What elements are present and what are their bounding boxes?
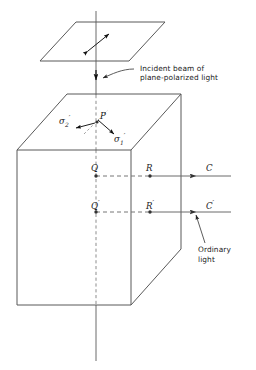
figure-canvas <box>0 0 256 370</box>
annotation-ordinary-light-line2: light <box>198 255 215 265</box>
point-dot-P <box>95 120 98 123</box>
annotation-incident-beam-line1: Incident beam of <box>140 64 204 74</box>
label-point-Cprime: C′ <box>206 200 214 211</box>
label-sigma1-prime: σ1′ <box>114 133 125 146</box>
label-point-C: C <box>206 164 213 173</box>
label-sigma2-prime: σ2′ <box>59 115 70 128</box>
label-point-P: P <box>100 112 106 121</box>
polarizer-plate-outline <box>40 22 165 61</box>
label-point-Qprime-letter: Q <box>91 201 98 211</box>
label-point-Qprime: Q′ <box>91 200 100 211</box>
prime-mark-C: ′ <box>213 199 215 207</box>
point-dot-R <box>148 174 151 177</box>
label-point-Q: Q <box>91 164 98 173</box>
label-point-R: R <box>146 164 152 173</box>
leader-incident-beam <box>103 69 134 78</box>
optics-double-refraction-figure: Incident beam of plane-polarized light O… <box>0 0 256 370</box>
crystal-edge-bottom-right-receding <box>131 249 181 305</box>
sigma1-vector-arrow <box>98 120 114 134</box>
prime-mark-R: ′ <box>152 199 154 207</box>
polarization-double-arrow <box>88 34 109 51</box>
sigma2-prime-mark: ′ <box>69 114 71 122</box>
label-point-Cprime-letter: C <box>206 201 213 211</box>
sigma1-prime-mark: ′ <box>124 132 126 140</box>
prime-mark-Q: ′ <box>98 199 100 207</box>
annotation-ordinary-light-line1: Ordinary <box>198 245 231 255</box>
crystal-top-face <box>17 94 181 150</box>
annotation-incident-beam-line2: plane-polarized light <box>140 73 218 83</box>
label-point-Rprime: R′ <box>146 200 154 211</box>
point-dot-Q <box>94 174 97 177</box>
leader-ordinary-light <box>196 215 205 243</box>
